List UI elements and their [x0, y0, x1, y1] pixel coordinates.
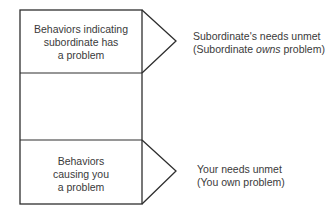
top-outcome-line-2: (Subordinate owns problem) [193, 43, 325, 56]
bottom-arrow-icon [142, 140, 176, 204]
bottom-outcome-line-1: Your needs unmet [197, 163, 285, 176]
bottom-outcome-emphasis: own [221, 176, 240, 188]
top-box-label: Behaviors indicating subordinate has a p… [20, 23, 142, 62]
top-box-label-line-3: a problem [20, 49, 142, 62]
top-box-label-line-1: Behaviors indicating [20, 23, 142, 36]
bottom-outcome-prefix: (You [197, 176, 221, 188]
top-arrow-icon [142, 10, 176, 73]
top-outcome-line-1: Subordinate's needs unmet [193, 30, 325, 43]
bottom-box-label-line-3: a problem [20, 181, 142, 194]
bottom-box-label-line-1: Behaviors [20, 155, 142, 168]
top-outcome-label: Subordinate's needs unmet (Subordinate o… [193, 30, 325, 56]
bottom-box-label-line-2: causing you [20, 168, 142, 181]
top-outcome-prefix: (Subordinate [193, 43, 256, 55]
bottom-outcome-label: Your needs unmet (You own problem) [197, 163, 285, 189]
top-outcome-suffix: problem) [281, 43, 325, 55]
top-box-label-line-2: subordinate has [20, 36, 142, 49]
top-outcome-emphasis: owns [256, 43, 281, 55]
bottom-outcome-line-2: (You own problem) [197, 176, 285, 189]
bottom-outcome-suffix: problem) [240, 176, 284, 188]
bottom-box-label: Behaviors causing you a problem [20, 155, 142, 194]
